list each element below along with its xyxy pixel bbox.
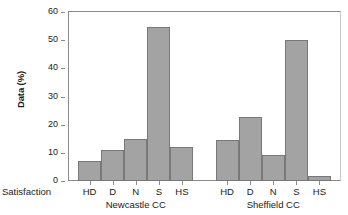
x-category-label: D (109, 186, 116, 197)
bar (285, 40, 308, 181)
x-category-label: N (270, 186, 277, 197)
bars-layer (69, 12, 340, 181)
y-tick-label: 0 (53, 175, 58, 185)
y-tick-label: 60 (48, 6, 58, 16)
x-category-label: S (293, 186, 299, 197)
y-tick-label: 50 (48, 34, 58, 44)
y-tick-label: 30 (48, 91, 58, 101)
bar (78, 161, 101, 181)
x-tick-mark (159, 181, 160, 185)
bar (170, 147, 193, 181)
x-tick-mark (319, 181, 320, 185)
bar (262, 155, 285, 181)
group-label: Newcastle CC (106, 199, 166, 210)
x-category-label: HS (313, 186, 326, 197)
bar (124, 139, 147, 181)
y-tick-mark (61, 12, 65, 13)
y-axis-title: Data (%) (15, 50, 26, 130)
x-tick-mark (182, 181, 183, 185)
bar (239, 117, 262, 181)
y-tick-label: 10 (48, 147, 58, 157)
bar (216, 140, 239, 181)
x-tick-mark (250, 181, 251, 185)
bar (147, 27, 170, 181)
y-tick-mark (61, 40, 65, 41)
x-category-label: S (156, 186, 162, 197)
group-label: Sheffield CC (247, 199, 300, 210)
y-tick-mark (61, 153, 65, 154)
bar-chart: Data (%) 0102030405060 Satisfaction HDDN… (0, 0, 348, 215)
y-tick-mark (61, 97, 65, 98)
x-category-label: N (132, 186, 139, 197)
x-category-label: D (247, 186, 254, 197)
x-tick-mark (136, 181, 137, 185)
bar (101, 150, 124, 181)
y-tick-mark (61, 181, 65, 182)
x-tick-mark (296, 181, 297, 185)
y-tick-mark (61, 125, 65, 126)
x-axis-title: Satisfaction (2, 186, 51, 197)
x-category-label: HD (83, 186, 97, 197)
x-category-label: HS (175, 186, 188, 197)
x-tick-mark (273, 181, 274, 185)
y-tick-label: 40 (48, 62, 58, 72)
x-tick-mark (227, 181, 228, 185)
x-category-label: HD (220, 186, 234, 197)
y-tick-mark (61, 68, 65, 69)
x-tick-mark (90, 181, 91, 185)
x-tick-mark (113, 181, 114, 185)
y-tick-label: 20 (48, 119, 58, 129)
